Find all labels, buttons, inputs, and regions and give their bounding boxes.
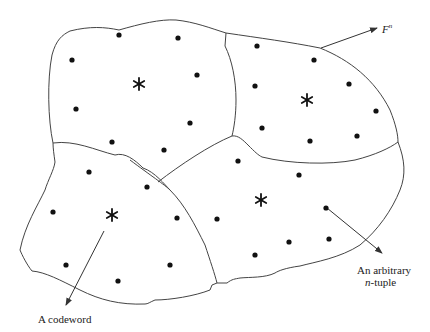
ntuple-label-rest: -tuple [371,276,397,288]
ntuple-label-line1: An arbitrary [357,264,411,276]
ntuple-label: An arbitrary n-tuple [357,264,411,288]
space-label: Fn [382,20,392,35]
boundary-topleft-bottomleft [53,142,170,190]
codeword-icon [302,94,312,106]
outer-boundary [20,20,404,304]
space-arrow [321,28,377,48]
boundary-left-right-vertical [225,33,236,136]
boundary-bottomleft-bottomright [130,160,217,283]
ntuple-dots [50,32,378,283]
space-label-base: F [382,23,389,35]
space-label-superscript: n [389,22,393,30]
ntuple-arrow [327,208,382,253]
boundary-top-bottom-middle [158,136,398,182]
ntuple-label-line2: n-tuple [357,276,411,288]
codeword-icon [107,209,117,221]
codeword-icon [256,194,266,206]
codeword-arrow [66,231,104,305]
codeword-asterisks [107,78,312,221]
codeword-label: A codeword [38,313,91,325]
codeword-icon [134,78,144,90]
